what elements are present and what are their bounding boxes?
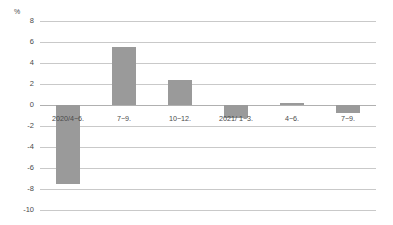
- gridline--6: [40, 168, 376, 169]
- y-axis-tick-label: 4: [4, 59, 34, 67]
- gridline--10: [40, 210, 376, 211]
- bar: [168, 80, 192, 105]
- y-axis-tick-label: 0: [4, 101, 34, 109]
- gridline--2: [40, 126, 376, 127]
- gridline-4: [40, 63, 376, 64]
- gridline--8: [40, 189, 376, 190]
- y-axis-tick-label: -8: [4, 185, 34, 193]
- x-axis-tick-label: 10−12.: [169, 115, 191, 122]
- gridline-8: [40, 21, 376, 22]
- gridline-6: [40, 42, 376, 43]
- gridline--4: [40, 147, 376, 148]
- y-axis-tick-label: -10: [4, 206, 34, 214]
- y-axis-tick-label: -4: [4, 143, 34, 151]
- gridline-2: [40, 84, 376, 85]
- x-axis-tick-label: 7−9.: [341, 115, 355, 122]
- x-axis-tick-label: 4−6.: [285, 115, 299, 122]
- bar-chart: % 86420-2-4-6-8-10 2020/4−6.7−9.10−12.20…: [0, 0, 393, 225]
- x-axis-tick-label: 2020/4−6.: [52, 115, 84, 122]
- y-axis-unit-label: %: [14, 8, 20, 15]
- y-axis: 86420-2-4-6-8-10: [0, 21, 34, 210]
- x-axis-tick-label: 7−9.: [117, 115, 131, 122]
- y-axis-tick-label: 6: [4, 38, 34, 46]
- gridline-0: [40, 105, 376, 106]
- y-axis-tick-label: 2: [4, 80, 34, 88]
- bar: [336, 105, 360, 113]
- y-axis-tick-label: -6: [4, 164, 34, 172]
- plot-area: 2020/4−6.7−9.10−12.2021/ 1−3.4−6.7−9.: [40, 21, 376, 210]
- x-axis-tick-label: 2021/ 1−3.: [219, 115, 253, 122]
- y-axis-tick-label: 8: [4, 17, 34, 25]
- bar: [280, 103, 304, 105]
- bar: [112, 47, 136, 105]
- y-axis-tick-label: -2: [4, 122, 34, 130]
